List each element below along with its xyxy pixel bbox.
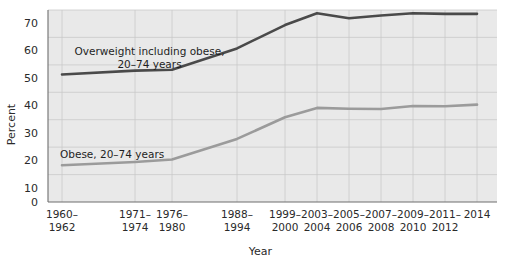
xtick-label-1960-1962: 1960– 1962 (34, 208, 90, 233)
series-annotation-obese: Obese, 20–74 years (60, 148, 200, 161)
ytick-label-20: 20 (12, 154, 38, 167)
ytick-label-50: 50 (12, 72, 38, 85)
ytick-label-70: 70 (12, 17, 38, 30)
xtick-label-1976-1980: 1976– 1980 (144, 208, 200, 233)
chart-figure: 70 60 50 40 30 20 10 0 Percent 1960– 196… (0, 0, 521, 264)
xtick-label-2014: 2014 (452, 208, 502, 221)
ytick-label-10: 10 (12, 182, 38, 195)
ytick-label-60: 60 (12, 44, 38, 57)
y-axis-title: Percent (5, 95, 18, 155)
x-axis-title: Year (0, 245, 521, 258)
series-annotation-overweight: Overweight including obese, 20–74 years (62, 45, 237, 71)
